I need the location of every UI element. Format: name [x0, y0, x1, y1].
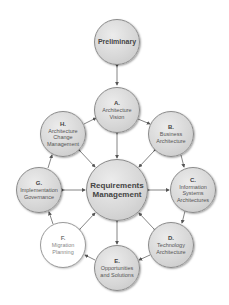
node-h-architecture-change-management: H. Architecture Change Management	[40, 111, 86, 157]
node-letter: A.	[114, 100, 120, 107]
node-letter: F.	[61, 235, 66, 242]
node-d-technology-architecture: D. Technology Architecture	[148, 222, 194, 268]
node-a-architecture-vision: A. Architecture Vision	[94, 87, 140, 133]
node-b-business-architecture: B. Business Architecture	[148, 111, 194, 157]
node-letter: G.	[36, 180, 42, 187]
node-e-opportunities-solutions: E. Opportunities and Solutions	[94, 245, 140, 291]
node-letter: D.	[168, 235, 174, 242]
node-c-information-systems: C. Information Systems Architectures	[170, 167, 216, 213]
node-letter: B.	[168, 124, 174, 131]
node-label: Business Architecture	[149, 131, 193, 144]
node-label: Architecture Vision	[95, 107, 139, 120]
node-letter: H.	[60, 121, 66, 128]
node-label: Opportunities and Solutions	[95, 265, 139, 278]
node-label: Implementation Governance	[17, 187, 61, 200]
node-letter: C.	[190, 177, 196, 184]
node-label: Information Systems Architectures	[171, 184, 215, 204]
node-label: Architecture Change Management	[41, 128, 85, 148]
node-f-migration-planning: F. Migration Planning	[40, 222, 86, 268]
node-label: Requirements Management	[87, 181, 147, 200]
node-requirements-management: Requirements Management	[86, 159, 148, 221]
node-label: Migration Planning	[41, 242, 85, 255]
node-g-implementation-governance: G. Implementation Governance	[16, 167, 62, 213]
node-label: Technology Architecture	[149, 242, 193, 255]
node-preliminary: Preliminary	[94, 19, 140, 65]
node-label: Preliminary	[96, 39, 138, 46]
node-letter: E.	[114, 258, 120, 265]
